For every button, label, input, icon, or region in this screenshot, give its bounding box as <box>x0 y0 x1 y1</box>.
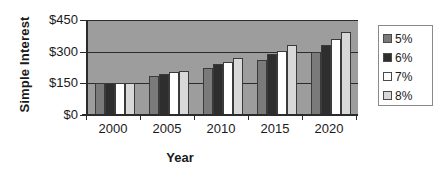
y-tick-mark <box>80 52 86 53</box>
bar-5pct-2005 <box>149 76 159 115</box>
legend-item-7pct[interactable]: 7% <box>383 67 432 86</box>
x-tick-label: 2020 <box>299 121 359 136</box>
x-tick-mark <box>248 115 249 120</box>
x-tick-mark <box>140 115 141 120</box>
x-axis-title: Year <box>0 150 360 165</box>
bar-7pct-2005 <box>169 72 179 115</box>
x-tick-mark <box>302 115 303 120</box>
legend-label: 6% <box>395 52 412 64</box>
legend-swatch-icon <box>383 34 392 43</box>
bar-7pct-2020 <box>331 39 341 115</box>
bars-container <box>88 20 358 115</box>
bar-6pct-2020 <box>321 45 331 115</box>
y-tick-label: $450 <box>20 13 78 26</box>
bar-5pct-2015 <box>257 60 267 115</box>
y-tick-label: $0 <box>20 108 78 121</box>
legend-item-8pct[interactable]: 8% <box>383 86 432 105</box>
bar-chart: Simple Interest $0$150$300$450 200020052… <box>0 0 437 176</box>
bar-6pct-2005 <box>159 74 169 115</box>
legend-swatch-icon <box>383 72 392 81</box>
plot-top-border <box>88 20 358 21</box>
y-tick-label: $300 <box>20 45 78 58</box>
legend-label: 5% <box>395 33 412 45</box>
bar-8pct-2010 <box>233 58 243 115</box>
x-axis-line <box>82 114 358 116</box>
x-tick-label: 2015 <box>245 121 305 136</box>
x-tick-mark <box>356 115 357 120</box>
legend-swatch-icon <box>383 53 392 62</box>
bar-5pct-2010 <box>203 68 213 116</box>
x-tick-label: 2005 <box>137 121 197 136</box>
y-tick-label: $150 <box>20 76 78 89</box>
plot-area <box>86 20 358 115</box>
bar-5pct-2020 <box>311 52 321 115</box>
y-tick-mark <box>80 20 86 21</box>
x-tick-mark <box>194 115 195 120</box>
x-tick-label: 2000 <box>83 121 143 136</box>
bar-6pct-2010 <box>213 64 223 115</box>
bar-8pct-2020 <box>341 32 351 115</box>
bar-7pct-2010 <box>223 62 233 115</box>
x-tick-mark <box>86 115 87 120</box>
bar-7pct-2015 <box>277 51 287 115</box>
legend-label: 7% <box>395 71 412 83</box>
bar-8pct-2015 <box>287 45 297 115</box>
legend: 5%6%7%8% <box>378 25 433 106</box>
legend-label: 8% <box>395 90 412 102</box>
legend-item-5pct[interactable]: 5% <box>383 29 432 48</box>
bar-6pct-2000 <box>105 83 115 115</box>
bar-6pct-2015 <box>267 54 277 115</box>
bar-8pct-2005 <box>179 71 189 115</box>
legend-item-6pct[interactable]: 6% <box>383 48 432 67</box>
legend-swatch-icon <box>383 91 392 100</box>
bar-5pct-2000 <box>95 83 105 115</box>
y-tick-mark <box>80 83 86 84</box>
bar-8pct-2000 <box>125 83 135 115</box>
bar-7pct-2000 <box>115 83 125 115</box>
x-tick-label: 2010 <box>191 121 251 136</box>
